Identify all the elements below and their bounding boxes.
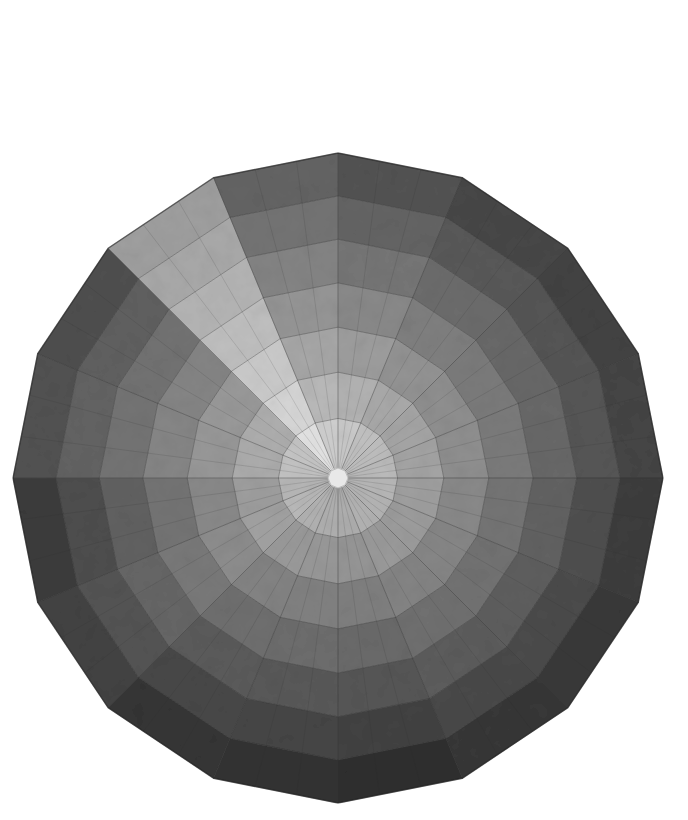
quilt-artwork bbox=[0, 0, 688, 820]
center-disc bbox=[328, 468, 348, 488]
